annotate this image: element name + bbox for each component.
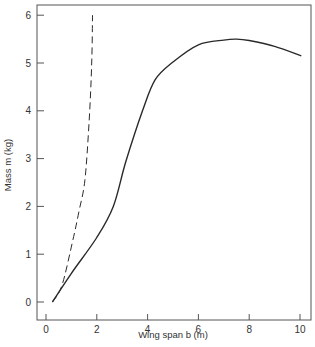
y-tick-label: 0 (25, 297, 31, 308)
plot-frame (37, 5, 311, 320)
y-tick-label: 3 (25, 153, 31, 164)
y-tick-label: 5 (25, 58, 31, 69)
x-axis-label: Wing span b (m) (138, 329, 208, 340)
y-tick-label: 2 (25, 201, 31, 212)
chart-canvas: 0246810 0123456 Wing span b (m) Mass m (… (0, 0, 315, 347)
x-tick-label: 0 (43, 324, 49, 335)
data-series (52, 15, 301, 302)
dashed-curve (52, 15, 92, 302)
solid-curve (52, 39, 301, 302)
x-tick-label: 8 (246, 324, 252, 335)
y-tick-label: 4 (25, 105, 31, 116)
y-tick-label: 6 (25, 10, 31, 21)
y-tick-label: 1 (25, 249, 31, 260)
x-tick-label: 2 (94, 324, 100, 335)
x-tick-label: 10 (294, 324, 306, 335)
y-axis-label: Mass m (kg) (2, 139, 13, 191)
y-axis-ticks: 0123456 (25, 10, 44, 308)
